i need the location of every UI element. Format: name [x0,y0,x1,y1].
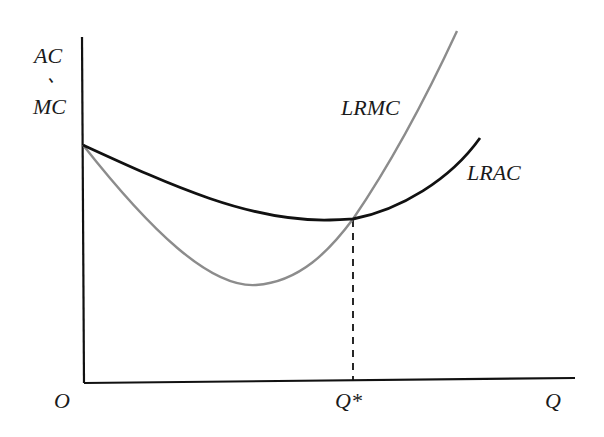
cost-curves-chart: AC 、 MC LRMC LRAC O Q* Q [0,0,604,437]
lrmc-curve [83,31,457,285]
y-axis-label-mc: MC [32,94,66,119]
lrac-label: LRAC [466,160,521,185]
q-star-label: Q* [335,388,362,413]
x-axis [84,378,575,383]
lrmc-label: LRMC [340,95,400,120]
y-axis [82,37,84,383]
y-axis-label-separator: 、 [47,66,65,86]
y-axis-label-ac: AC [32,43,62,68]
lrac-curve [83,138,480,220]
origin-label: O [54,388,70,413]
x-axis-label: Q [545,388,561,413]
